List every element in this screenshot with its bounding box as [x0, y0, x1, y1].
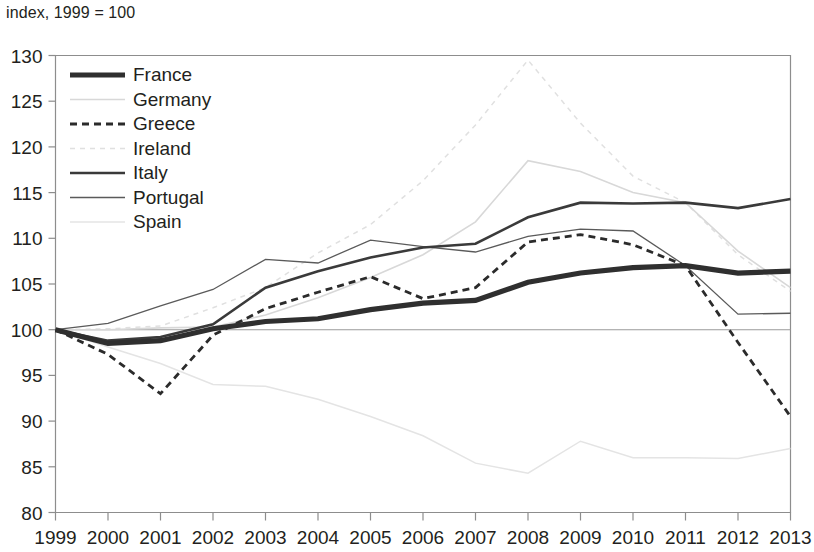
x-tick-label: 2012: [717, 527, 759, 548]
y-tick-label: 95: [21, 365, 42, 386]
x-tick-label: 2006: [402, 527, 444, 548]
y-tick-label: 120: [11, 137, 43, 158]
x-tick-label: 2001: [139, 527, 181, 548]
x-tick-label: 2005: [349, 527, 391, 548]
y-tick-label: 115: [12, 183, 42, 204]
legend-label-ireland: Ireland: [133, 138, 191, 159]
y-tick-label: 90: [21, 411, 42, 432]
y-tick-label: 125: [11, 91, 43, 112]
x-tick-label: 2007: [454, 527, 496, 548]
series-line-spain: [56, 330, 791, 473]
x-tick-label: 2003: [244, 527, 286, 548]
legend-label-portugal: Portugal: [133, 187, 204, 208]
chart-figure: index, 1999 = 100 8085909510010511011512…: [0, 0, 814, 552]
x-axis-tick-labels: 1999200020012002200320042005200620072008…: [34, 527, 811, 548]
x-tick-label: 2000: [87, 527, 129, 548]
y-tick-label: 85: [21, 457, 42, 478]
x-tick-label: 2004: [297, 527, 340, 548]
series-line-portugal: [56, 229, 791, 330]
legend-label-france: France: [133, 64, 192, 85]
chart-legend: FranceGermanyGreeceIrelandItalyPortugalS…: [70, 64, 212, 232]
y-tick-label: 80: [21, 503, 42, 524]
x-tick-label: 1999: [34, 527, 76, 548]
y-tick-label: 100: [11, 320, 43, 341]
x-tick-label: 2008: [507, 527, 549, 548]
y-tick-label: 105: [11, 274, 43, 295]
y-tick-label: 130: [11, 46, 43, 67]
y-tick-label: 110: [12, 228, 42, 249]
x-tick-label: 2009: [559, 527, 601, 548]
legend-label-spain: Spain: [133, 211, 182, 232]
legend-label-italy: Italy: [133, 162, 168, 183]
legend-label-greece: Greece: [133, 113, 195, 134]
y-axis-tick-labels: 80859095100105110115120125130: [11, 46, 43, 524]
x-tick-label: 2013: [769, 527, 811, 548]
x-tick-label: 2002: [192, 527, 234, 548]
x-tick-label: 2011: [665, 527, 706, 548]
y-axis-tick-marks: [49, 56, 56, 513]
x-axis-tick-marks: [56, 513, 791, 521]
x-tick-label: 2010: [612, 527, 654, 548]
legend-label-germany: Germany: [133, 89, 212, 110]
line-chart-svg: 80859095100105110115120125130 1999200020…: [0, 0, 814, 552]
